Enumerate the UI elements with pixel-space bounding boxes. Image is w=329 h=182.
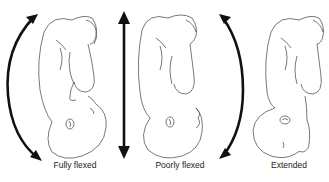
panel-fully-flexed: Fully flexed [0,0,110,182]
fully-flexed-figure [0,0,110,182]
fetus-outline-icon [39,16,107,158]
panel-extended: Extended [219,0,329,182]
poorly-flexed-figure [110,0,220,182]
fetus-outline-icon [138,15,202,158]
curved-double-arrow-icon [8,14,42,161]
extended-figure [219,0,329,182]
label-poorly-flexed: Poorly flexed [150,160,210,170]
label-fully-flexed: Fully flexed [50,160,100,170]
straight-double-arrow-icon [118,11,130,159]
label-extended: Extended [264,160,314,170]
fetus-outline-icon [253,16,324,157]
curved-double-arrow-icon [219,14,243,159]
panel-poorly-flexed: Poorly flexed [110,0,220,182]
